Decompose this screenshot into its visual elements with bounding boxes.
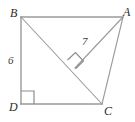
vertex-label-C: C xyxy=(104,105,112,117)
right-angle-mark-foot xyxy=(68,53,84,69)
geometry-figure: B A D C 6 7 xyxy=(0,0,135,122)
vertex-label-A: A xyxy=(123,6,130,18)
length-label-AF: 7 xyxy=(82,36,88,47)
segment-CA xyxy=(102,17,123,104)
length-label-BD: 6 xyxy=(8,55,14,66)
geometry-canvas xyxy=(0,0,135,122)
right-angle-mark-D xyxy=(21,91,34,104)
vertex-label-B: B xyxy=(10,7,17,19)
vertex-label-D: D xyxy=(9,101,18,113)
